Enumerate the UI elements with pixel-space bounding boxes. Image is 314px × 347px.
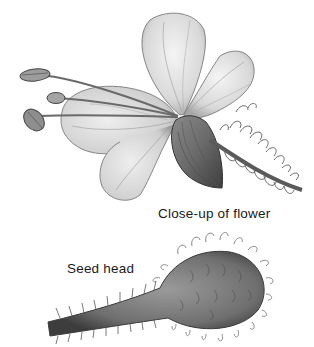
flower-label: Close-up of flower	[158, 206, 270, 221]
flower-drawing	[0, 0, 314, 347]
seed-head-drawing	[48, 233, 273, 344]
seed-head-label: Seed head	[67, 261, 134, 276]
flower-stem-bristles	[210, 104, 302, 194]
petal-lower-left	[61, 86, 176, 200]
botanical-illustration: Close-up of flower Seed head	[0, 0, 314, 347]
sepal	[172, 116, 223, 188]
